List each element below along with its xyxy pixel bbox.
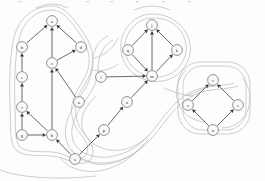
graph-edge bbox=[20, 53, 24, 71]
graph-edge bbox=[56, 25, 76, 43]
graph-node-label: m bbox=[150, 74, 154, 79]
graph-node-l[interactable]: l bbox=[96, 72, 107, 83]
graph-edge bbox=[20, 113, 24, 129]
graph-canvas: abcdefghnslopqjkmrtuv bbox=[0, 0, 265, 181]
graph-node-v[interactable]: v bbox=[183, 100, 194, 111]
graph-edge bbox=[132, 29, 148, 45]
graph-node-c[interactable]: c bbox=[47, 58, 58, 69]
graph-node-label: a bbox=[51, 19, 53, 24]
graph-edge bbox=[150, 31, 154, 70]
graph-node-b[interactable]: b bbox=[17, 42, 28, 53]
graph-edge bbox=[79, 134, 100, 155]
graph-node-label: c bbox=[51, 61, 53, 66]
top-edge-artifacts bbox=[18, 1, 191, 10]
graph-node-label: j bbox=[150, 23, 152, 28]
cluster-contours bbox=[0, 6, 250, 178]
graph-node-n[interactable]: n bbox=[74, 97, 85, 108]
graph-edge bbox=[27, 25, 48, 43]
diagram-root: abcdefghnslopqjkmrtuv bbox=[0, 0, 265, 181]
graph-edge bbox=[55, 68, 75, 97]
graph-node-a[interactable]: a bbox=[47, 16, 58, 27]
graph-node-label: e bbox=[21, 75, 23, 80]
graph-node-f[interactable]: f bbox=[17, 102, 28, 113]
graph-edge bbox=[57, 50, 75, 60]
graph-node-r[interactable]: r bbox=[208, 75, 219, 86]
graph-node-u[interactable]: u bbox=[208, 125, 219, 136]
graph-node-k[interactable]: k bbox=[172, 45, 183, 56]
graph-node-p[interactable]: p bbox=[99, 125, 110, 136]
graph-node-t[interactable]: t bbox=[233, 100, 244, 111]
graph-edge bbox=[156, 29, 173, 46]
graph-edge bbox=[20, 83, 24, 101]
node-layer: abcdefghnslopqjkmrtuv bbox=[17, 16, 244, 165]
graph-node-g[interactable]: g bbox=[17, 130, 28, 141]
graph-node-j[interactable]: j bbox=[147, 20, 158, 31]
graph-edge bbox=[26, 111, 47, 131]
graph-node-e[interactable]: e bbox=[17, 72, 28, 83]
graph-edge bbox=[131, 80, 148, 97]
graph-node-o[interactable]: o bbox=[122, 97, 133, 108]
graph-node-h[interactable]: h bbox=[47, 130, 58, 141]
graph-edge bbox=[50, 69, 54, 129]
graph-node-q[interactable]: q bbox=[123, 45, 134, 56]
graph-edge bbox=[108, 107, 123, 126]
graph-node-m[interactable]: m bbox=[147, 71, 158, 82]
graph-edge bbox=[156, 54, 173, 71]
graph-edge bbox=[50, 27, 54, 57]
graph-edge bbox=[217, 109, 234, 126]
graph-edge bbox=[192, 109, 209, 126]
graph-node-d[interactable]: d bbox=[76, 42, 87, 53]
graph-edge bbox=[217, 84, 234, 101]
graph-node-s[interactable]: s bbox=[70, 154, 81, 165]
graph-node-label: s bbox=[74, 157, 76, 162]
graph-edge bbox=[28, 133, 46, 137]
